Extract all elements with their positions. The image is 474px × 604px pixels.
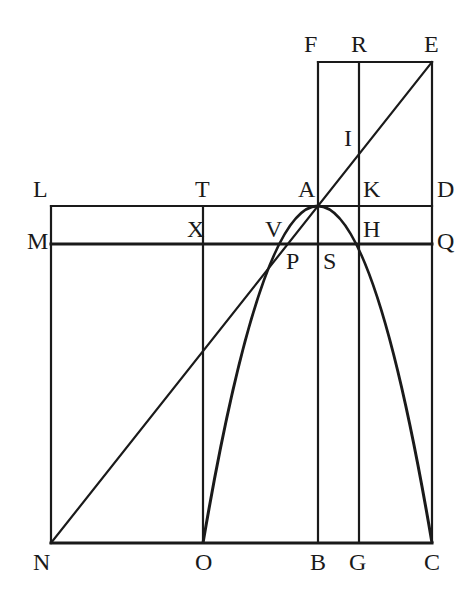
- label-V: V: [265, 216, 283, 242]
- label-H: H: [363, 216, 380, 242]
- label-A: A: [298, 176, 316, 202]
- label-B: B: [310, 549, 326, 575]
- label-R: R: [351, 31, 367, 57]
- label-P: P: [286, 248, 299, 274]
- label-X: X: [187, 216, 204, 242]
- label-S: S: [323, 248, 336, 274]
- label-E: E: [424, 31, 439, 57]
- label-K: K: [363, 176, 381, 202]
- label-M: M: [27, 228, 48, 254]
- label-F: F: [304, 31, 317, 57]
- label-I: I: [344, 125, 352, 151]
- label-O: O: [195, 549, 212, 575]
- label-D: D: [437, 176, 454, 202]
- label-T: T: [195, 176, 210, 202]
- geometric-diagram: F R E I L T A K D M X V P S H Q N O B G …: [0, 0, 474, 604]
- label-C: C: [424, 549, 440, 575]
- label-L: L: [33, 176, 48, 202]
- label-N: N: [33, 549, 50, 575]
- label-Q: Q: [437, 228, 454, 254]
- diagonal-NE: [51, 62, 432, 543]
- label-G: G: [349, 549, 366, 575]
